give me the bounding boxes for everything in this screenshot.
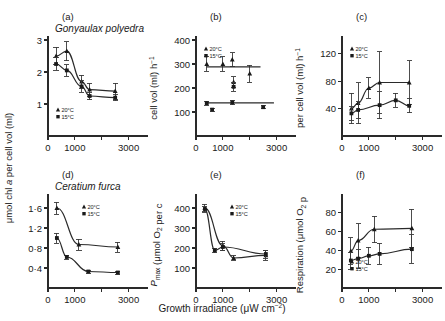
- marker-square-d: [86, 270, 90, 274]
- marker-square-e: [213, 249, 217, 253]
- xtick-label-a-1: 1000: [64, 142, 85, 153]
- xtick-label-d-3: 3000: [118, 294, 139, 305]
- xtick-label-b-3: 3000: [266, 142, 287, 153]
- species-title-a: Gonyaulax polyedra: [55, 23, 144, 34]
- legend-d: 20°C15°C: [82, 204, 100, 217]
- ytick-label-c-1: 80: [325, 76, 336, 87]
- legend-marker-triangle-icon: [56, 108, 60, 112]
- marker-square-f: [410, 247, 414, 251]
- panel-label-f: (f): [356, 169, 365, 180]
- marker-square-b: [230, 101, 234, 105]
- marker-triangle-b: [220, 61, 225, 66]
- ytick-label-b-1: 200: [174, 83, 190, 94]
- ytick-label-a-1: 2: [37, 67, 42, 78]
- marker-square-a: [80, 85, 84, 89]
- marker-square-c: [356, 108, 360, 112]
- legend-marker-triangle-icon: [350, 47, 354, 51]
- legend-label-cool-d: 15°C: [87, 211, 100, 217]
- ytick-label-d-0: 0·4: [28, 263, 42, 274]
- ylabel-respiration-text: Respiration (μmol O2 p: [294, 197, 308, 293]
- xtick-label-a-0: 0: [45, 142, 50, 153]
- ytick-label-e-1: 200: [174, 243, 190, 254]
- ylabel-respiration: Respiration (μmol O2 p: [294, 197, 308, 293]
- legend-marker-square-icon: [350, 54, 353, 57]
- marker-square-a: [65, 69, 69, 73]
- ytick-label-f-2: 60: [325, 226, 336, 237]
- ytick-label-e-2: 300: [174, 223, 190, 234]
- legend-label-warm-d: 20°C: [87, 204, 100, 210]
- legend-marker-triangle-icon: [82, 205, 86, 209]
- xtick-label-b-1: 1000: [212, 142, 233, 153]
- marker-square-f: [367, 254, 371, 258]
- ylabel-panel-b: cell vol (ml) h−1: [148, 56, 159, 120]
- ytick-label-f-1: 40: [325, 245, 336, 256]
- marker-square-a: [113, 96, 117, 100]
- legend-c: 20°C15°C: [350, 46, 368, 59]
- ytick-label-b-0: 100: [174, 107, 190, 118]
- marker-square-b: [210, 108, 214, 112]
- ylabel-pmax-text: Pmax (μmol O2 per c: [148, 203, 164, 286]
- marker-square-e: [221, 245, 225, 249]
- legend-marker-triangle-icon: [230, 205, 234, 209]
- ytick-label-e-3: 400: [174, 203, 190, 214]
- marker-square-e: [264, 252, 268, 256]
- axis-spine-a: [48, 36, 148, 136]
- panel-label-d: (d): [62, 169, 74, 180]
- xtick-label-c-3: 3000: [412, 142, 433, 153]
- ytick-label-a-2: 3: [37, 35, 42, 46]
- figure-root: (a)Gonyaulax polyedra12301000300020°C15°…: [0, 0, 445, 321]
- xtick-label-d-0: 0: [45, 294, 50, 305]
- legend-label-cool-a: 15°C: [61, 114, 74, 120]
- marker-square-b: [232, 85, 236, 89]
- legend-a: 20°C15°C: [56, 107, 74, 120]
- xtick-label-c-0: 0: [339, 142, 344, 153]
- marker-square-e: [203, 207, 207, 211]
- ytick-label-f-3: 80: [325, 207, 336, 218]
- legend-label-cool-f: 15°C: [355, 266, 368, 272]
- ytick-label-f-0: 20: [325, 264, 336, 275]
- marker-triangle-d: [54, 205, 59, 210]
- ylabel-chl-a: μmol chl a per cell vol (ml): [3, 113, 14, 224]
- panel-label-c: (c): [356, 11, 367, 22]
- ylabel-chl-a-text: μmol chl a per cell vol (ml): [3, 113, 14, 224]
- panel-label-a: (a): [62, 11, 74, 22]
- x-axis-label: Growth irradiance (μW cm−2): [158, 302, 285, 314]
- legend-marker-square-icon: [204, 54, 207, 57]
- xtick-label-a-3: 3000: [118, 142, 139, 153]
- legend-label-cool-e: 15°C: [235, 211, 248, 217]
- legend-label-warm-a: 20°C: [61, 107, 74, 113]
- legend-label-warm-e: 20°C: [235, 204, 248, 210]
- panel-c: (c)408012001000300020°C15°C: [320, 11, 442, 153]
- xtick-label-f-0: 0: [339, 294, 344, 305]
- panel-label-e: (e): [210, 169, 222, 180]
- marker-square-c: [378, 103, 382, 107]
- marker-square-c: [350, 111, 354, 115]
- marker-square-d: [116, 271, 120, 275]
- ytick-label-d-1: 0·8: [28, 243, 42, 254]
- xtick-label-b-0: 0: [193, 142, 198, 153]
- marker-square-a: [54, 62, 58, 66]
- ytick-label-b-3: 400: [174, 35, 190, 46]
- ytick-label-d-3: 1·6: [28, 203, 42, 214]
- marker-square-b: [261, 105, 265, 109]
- marker-square-d: [65, 255, 69, 259]
- xtick-label-f-1: 1000: [358, 294, 379, 305]
- panel-e: (e)10020030040001000300020°C15°C: [174, 169, 296, 305]
- legend-marker-square-icon: [230, 212, 233, 215]
- panel-label-b: (b): [210, 11, 222, 22]
- ylabel-panel-c: per cell vol (ml) h−1: [294, 48, 305, 128]
- xtick-label-f-3: 3000: [412, 294, 433, 305]
- marker-square-c: [394, 98, 398, 102]
- marker-triangle-b: [230, 57, 235, 62]
- marker-triangle-b: [247, 71, 252, 76]
- marker-triangle-b: [204, 61, 209, 66]
- series-b-cool: [204, 82, 274, 111]
- fit-curve-f: [351, 228, 412, 251]
- legend-e: 20°C15°C: [230, 204, 248, 217]
- ytick-label-c-2: 120: [320, 48, 336, 59]
- legend-label-warm-b: 20°C: [209, 46, 222, 52]
- ylabel-panel-c-text: per cell vol (ml) h−1: [294, 48, 305, 128]
- legend-label-warm-f: 20°C: [355, 259, 368, 265]
- legend-marker-square-icon: [82, 212, 85, 215]
- legend-marker-triangle-icon: [204, 47, 208, 51]
